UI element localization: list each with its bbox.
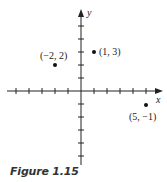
x-axis: x	[7, 88, 163, 105]
point-label: (5, −1)	[129, 111, 156, 123]
point-label: (−2, 2)	[40, 50, 67, 62]
data-point: (1, 3)	[92, 46, 121, 58]
y-axis: y	[78, 7, 92, 165]
data-point: (5, −1)	[129, 103, 156, 123]
coordinate-plane: x y (−2, 2) (1, 3) (5, −1)	[0, 0, 167, 182]
figure-caption: Figure 1.15	[10, 165, 79, 178]
y-axis-arrow-icon	[78, 9, 84, 17]
y-axis-label: y	[86, 7, 92, 18]
point-label: (1, 3)	[99, 46, 121, 58]
data-point: (−2, 2)	[40, 50, 67, 67]
x-axis-label: x	[155, 94, 161, 105]
